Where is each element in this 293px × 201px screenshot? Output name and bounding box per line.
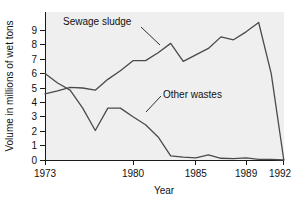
x-tick-label-1985: 1985	[185, 168, 208, 179]
x-tick-label-1992: 1992	[269, 168, 292, 179]
plot-area-background	[45, 12, 284, 160]
annotation-other-wastes: Other wastes	[163, 89, 222, 100]
y-tick-label-0: 0	[31, 155, 37, 166]
y-axis-ticks: 0 1 2 3 4 5 6 7 8 9	[31, 25, 45, 166]
x-tick-label-1973: 1973	[34, 168, 57, 179]
y-tick-label-2: 2	[31, 126, 37, 137]
y-tick-label-8: 8	[31, 39, 37, 50]
y-tick-label-7: 7	[31, 54, 37, 65]
y-tick-label-5: 5	[31, 83, 37, 94]
x-tick-label-1989: 1989	[235, 168, 258, 179]
y-axis-title: Volume in millions of wet tons	[4, 20, 15, 151]
y-tick-label-4: 4	[31, 97, 37, 108]
x-axis-ticks: 1973 1980 1985 1989 1992	[34, 160, 292, 179]
x-tick-label-1980: 1980	[122, 168, 145, 179]
chart-figure: 0 1 2 3 4 5 6 7 8 9 1973 1980	[0, 0, 293, 201]
x-axis-title: Year	[154, 185, 175, 196]
y-tick-label-1: 1	[31, 140, 37, 151]
y-tick-label-3: 3	[31, 111, 37, 122]
annotation-sewage-sludge: Sewage sludge	[63, 16, 132, 27]
line-chart: 0 1 2 3 4 5 6 7 8 9 1973 1980	[0, 0, 293, 201]
y-tick-label-6: 6	[31, 68, 37, 79]
y-tick-label-9: 9	[31, 25, 37, 36]
